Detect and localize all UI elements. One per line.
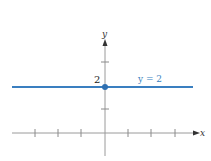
y-intercept-point xyxy=(102,84,108,90)
chart-canvas: y x 2 y = 2 xyxy=(0,0,211,161)
x-axis-arrow-icon xyxy=(193,131,200,136)
y-axis-arrow-icon xyxy=(103,39,108,46)
y-intercept-label: 2 xyxy=(94,74,100,85)
y-axis-label: y xyxy=(101,29,108,39)
x-axis-label: x xyxy=(200,128,205,138)
equation-label: y = 2 xyxy=(137,74,162,84)
